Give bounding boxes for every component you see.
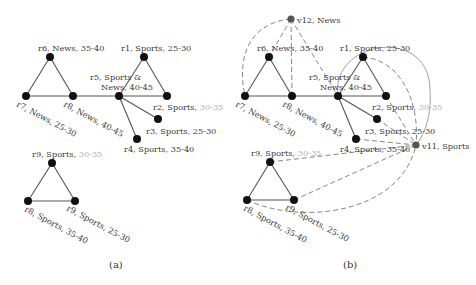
node-r1 xyxy=(140,53,148,61)
vedge-v12-r8 xyxy=(291,19,292,96)
node-r3 xyxy=(373,115,381,123)
caption-a: (a) xyxy=(109,259,123,270)
edge-r6-r7 xyxy=(245,57,269,96)
node-r1 xyxy=(359,53,367,61)
panel-b: v12, News v11, Sports r6, News, 35-40 r7… xyxy=(234,15,469,270)
node-v11 xyxy=(412,141,419,148)
label-v11: v11, Sports xyxy=(421,141,469,151)
node-r5 xyxy=(115,92,123,100)
edge-r6-r7 xyxy=(26,57,50,96)
label-r9-top: r9, Sports, 30-35 xyxy=(251,148,321,158)
label-r3: r3, Sports, 25-30 xyxy=(146,126,216,136)
label-r2: r2, Sports, 30-35 xyxy=(153,102,223,112)
label-v12: v12, News xyxy=(296,15,340,25)
label-r4: r4, Sports, 35-40 xyxy=(340,144,410,154)
node-r7 xyxy=(22,92,30,100)
node-r6 xyxy=(265,53,273,61)
label-r2: r2, Sports, 30-35 xyxy=(372,102,442,112)
diagram-canvas: r6, News, 35-40 r7, News, 25-30 r8, News… xyxy=(0,0,476,285)
edge-r6-r8 xyxy=(50,57,73,96)
node-r2 xyxy=(382,92,390,100)
node-r7 xyxy=(241,92,249,100)
edge-r9-r8 xyxy=(247,162,270,200)
node-r3 xyxy=(154,115,162,123)
edge-r9-r9b xyxy=(52,163,75,201)
node-r4 xyxy=(133,135,141,143)
panel-a: r6, News, 35-40 r7, News, 25-30 r8, News… xyxy=(15,43,223,270)
label-r6: r6, News, 35-40 xyxy=(38,43,104,53)
label-r5-line2: News, 40-45 xyxy=(320,82,372,92)
edge-r9-r9b xyxy=(270,162,294,200)
edge-r6-r8 xyxy=(269,57,292,96)
edge-r9-r8 xyxy=(28,163,52,201)
node-r8 xyxy=(288,92,296,100)
label-r1: r1, Sports, 25-30 xyxy=(121,43,191,53)
label-r5-line2: News, 40-45 xyxy=(101,82,153,92)
caption-b: (b) xyxy=(343,259,357,270)
node-v12 xyxy=(287,15,294,22)
label-r4: r4, Sports, 35-40 xyxy=(124,144,194,154)
node-r6 xyxy=(46,53,54,61)
node-r9-top xyxy=(48,159,56,167)
label-r6: r6, News, 35-40 xyxy=(257,43,323,53)
label-r3: r3, Sports, 25-30 xyxy=(365,126,435,136)
label-r5-line1: r5, Sports & xyxy=(90,72,141,82)
node-r8 xyxy=(69,92,77,100)
node-r2 xyxy=(163,92,171,100)
label-r9-top: r9, Sports, 30-35 xyxy=(32,149,102,159)
label-r5-line1: r5, Sports & xyxy=(309,72,360,82)
node-r9-top xyxy=(266,158,274,166)
node-r5 xyxy=(334,92,342,100)
node-r4 xyxy=(352,135,360,143)
label-r1: r1, Sports, 25-30 xyxy=(340,43,410,53)
